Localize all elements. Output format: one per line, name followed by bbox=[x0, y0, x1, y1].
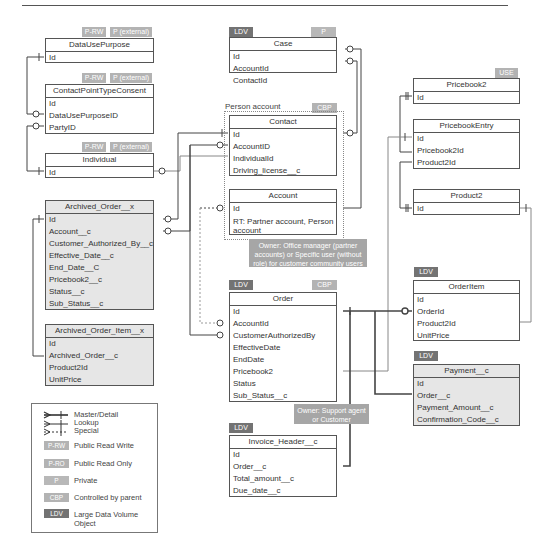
field: Pricebook2Id bbox=[414, 145, 519, 157]
field: Total_amount__c bbox=[230, 473, 336, 485]
field: Id bbox=[414, 294, 519, 306]
field: Id bbox=[46, 214, 153, 226]
legend-badge-p: P bbox=[44, 476, 69, 485]
field: Id bbox=[46, 338, 153, 350]
field: UnitPrice bbox=[46, 374, 153, 386]
entity-data-use-purpose[interactable]: DataUsePurpose Id bbox=[45, 38, 154, 63]
entity-invoice-header[interactable]: Invoice_Header__c Id Order__c Total_amou… bbox=[229, 435, 337, 497]
badge-ldv: LDV bbox=[229, 27, 253, 37]
legend-badge-pro: P-RO bbox=[44, 459, 69, 468]
badge-prw: P-RW bbox=[82, 27, 106, 37]
entity-title: Case bbox=[230, 38, 336, 51]
field: Archived_Order__c bbox=[46, 350, 153, 362]
entity-title: DataUsePurpose bbox=[46, 39, 153, 52]
badge-prw: P-RW bbox=[82, 142, 106, 152]
field: CustomerAuthorizedBy bbox=[230, 330, 336, 342]
legend-label-prw: Public Read Write bbox=[74, 442, 134, 450]
badge-use: USE bbox=[495, 68, 518, 78]
entity-archived-order[interactable]: Archived_Order__x Id Account__c Customer… bbox=[45, 200, 154, 310]
badge-cbp: CBP bbox=[312, 280, 337, 290]
entity-case[interactable]: Case Id AccountId ContactId bbox=[229, 37, 337, 73]
field: Id bbox=[46, 52, 153, 64]
badge-p: P bbox=[311, 27, 336, 37]
badge-p-external: P (external) bbox=[110, 73, 152, 83]
field: Id bbox=[230, 449, 336, 461]
field: Customer_Authorized_By__c bbox=[46, 238, 153, 250]
entity-archived-order-item[interactable]: Archived_Order_Item__x Id Archived_Order… bbox=[45, 324, 154, 386]
field: OrderId bbox=[414, 306, 519, 318]
field: AccountID bbox=[230, 141, 336, 153]
field: Id bbox=[230, 203, 336, 215]
field: UnitPrice bbox=[414, 330, 519, 342]
field: Id bbox=[230, 129, 336, 141]
field: Id bbox=[414, 133, 519, 145]
field: DataUsePurposeID bbox=[46, 110, 153, 122]
entity-individual[interactable]: Individual Id bbox=[45, 153, 154, 178]
field: Id bbox=[230, 306, 336, 318]
entity-title: Archived_Order__x bbox=[46, 201, 153, 214]
field: AccountId bbox=[230, 63, 336, 75]
badge-p-external: P (external) bbox=[110, 142, 152, 152]
entity-title: Product2 bbox=[414, 190, 519, 203]
field: ContactId bbox=[230, 75, 336, 87]
field: End_Date__C bbox=[46, 262, 153, 274]
field: Pricebook2 bbox=[230, 366, 336, 378]
legend-badge-cbp: CBP bbox=[44, 493, 69, 502]
entity-title: Order bbox=[230, 293, 336, 306]
group-label-person-account: Person account bbox=[225, 102, 281, 111]
entity-title: OrderItem bbox=[414, 281, 519, 294]
field: Driving_license__c bbox=[230, 165, 336, 177]
legend-badge-ldv: LDV bbox=[44, 509, 69, 518]
entity-product2[interactable]: Product2 Id bbox=[413, 189, 520, 215]
field: Pricebook2__c bbox=[46, 274, 153, 286]
entity-order[interactable]: Order Id AccountId CustomerAuthorizedBy … bbox=[229, 292, 337, 402]
badge-ldv: LDV bbox=[414, 351, 438, 361]
field: Order__c bbox=[230, 461, 336, 473]
field: AccountId bbox=[230, 318, 336, 330]
entity-title: Payment__c bbox=[414, 365, 519, 378]
field: Sub_Status__c bbox=[230, 390, 336, 402]
field: Product2Id bbox=[414, 157, 519, 169]
entity-title: Individual bbox=[46, 154, 153, 167]
entity-account[interactable]: Account Id RT: Partner account, Person a… bbox=[229, 189, 337, 235]
field: Sub_Status__c bbox=[46, 298, 153, 310]
field: EffectiveDate bbox=[230, 342, 336, 354]
legend-label-cbp: Controlled by parent bbox=[74, 494, 142, 502]
field: Product2Id bbox=[46, 362, 153, 374]
entity-contact[interactable]: Contact Id AccountID IndividualId Drivin… bbox=[229, 115, 337, 176]
field: PartyID bbox=[46, 122, 153, 134]
legend-badge-prw: P-RW bbox=[44, 441, 69, 450]
entity-title: PricebookEntry bbox=[414, 120, 519, 133]
field: Effective_Date__c bbox=[46, 250, 153, 262]
relation-line-icons bbox=[42, 410, 70, 436]
note-account-owner: Owner: Office manager (partner accounts)… bbox=[249, 239, 367, 267]
badge-p-external: P (external) bbox=[110, 27, 152, 37]
caption-rule bbox=[22, 5, 508, 6]
field: Id bbox=[414, 92, 519, 104]
field: Id bbox=[414, 203, 519, 215]
note-order-owner: Owner: Support agent or Customer bbox=[294, 404, 369, 424]
badge-ldv: LDV bbox=[414, 267, 438, 277]
entity-pricebook-entry[interactable]: PricebookEntry Id Pricebook2Id Product2I… bbox=[413, 119, 520, 169]
entity-pricebook2[interactable]: Pricebook2 Id bbox=[413, 78, 520, 104]
entity-title: ContactPointTypeConsent bbox=[46, 85, 153, 98]
entity-order-item[interactable]: OrderItem Id OrderId Product2Id UnitPric… bbox=[413, 280, 520, 341]
field: Due_date__c bbox=[230, 485, 336, 497]
entity-title: Contact bbox=[230, 116, 336, 129]
entity-title: Pricebook2 bbox=[414, 79, 519, 92]
legend-special: Special bbox=[74, 427, 99, 435]
field: Status bbox=[230, 378, 336, 390]
entity-payment[interactable]: Payment__c Id Order__c Payment_Amount__c… bbox=[413, 364, 520, 426]
field: Confirmation_Code__c bbox=[414, 414, 519, 426]
entity-title: Account bbox=[230, 190, 336, 203]
entity-title: Invoice_Header__c bbox=[230, 436, 336, 449]
badge-prw: P-RW bbox=[82, 73, 106, 83]
field: Payment_Amount__c bbox=[414, 402, 519, 414]
field: Product2Id bbox=[414, 318, 519, 330]
field: EndDate bbox=[230, 354, 336, 366]
legend: Master/Detail Lookup Special P-RW Public… bbox=[31, 403, 158, 533]
field: Id bbox=[414, 378, 519, 390]
entity-contact-point-type-consent[interactable]: ContactPointTypeConsent Id DataUsePurpos… bbox=[45, 84, 154, 134]
badge-ldv: LDV bbox=[229, 280, 253, 290]
field: RT: Partner account, Person account bbox=[230, 215, 336, 235]
